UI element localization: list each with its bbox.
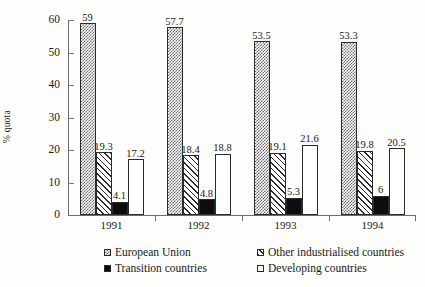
bar-value-label: 19.3 [94,142,112,153]
legend-swatch [257,265,264,272]
legend-label: Developing countries [268,263,367,275]
bar-value-label: 53.3 [339,31,357,42]
y-tick-mark [69,20,74,21]
bar-value-label: 20.5 [387,138,405,149]
y-tick-label: 0 [30,209,60,221]
x-tick-label: 1994 [329,220,416,231]
legend-item: Other industrialised countries [257,247,404,259]
legend-label: European Union [115,247,191,259]
x-tick-mark [329,216,330,221]
bar-value-label: 59 [82,13,93,24]
bar-value-label: 5.3 [287,187,300,198]
y-tick-label: 20 [30,144,60,156]
bar: 57.7 [167,27,183,215]
bar: 5.3 [286,198,302,215]
legend-swatch [104,265,111,272]
bar: 53.3 [341,42,357,215]
bar-value-label: 21.6 [300,134,318,145]
bar-group: 5919.34.117.2 [80,20,144,215]
bar: 20.5 [389,148,405,215]
y-tick-mark [69,53,74,54]
chart-legend: European UnionOther industrialised count… [104,247,404,279]
bar: 18.8 [215,154,231,215]
bar-group: 53.319.8620.5 [341,20,405,215]
bar-group: 53.519.15.321.6 [254,20,318,215]
y-tick-mark [69,118,74,119]
legend-item: European Union [104,247,191,259]
y-tick-mark [69,85,74,86]
y-axis-title: % quota [2,92,16,162]
y-tick-mark [69,215,74,216]
bar: 53.5 [254,41,270,215]
bar: 6 [373,196,389,216]
bar-value-label: 17.2 [126,149,144,160]
bar: 4.1 [112,202,128,215]
y-tick-mark [69,183,74,184]
y-tick-label: 60 [30,14,60,26]
y-tick-label: 50 [30,47,60,59]
chart-figure: % quota 0102030405060 5919.34.117.257.71… [0,0,425,287]
legend-item: Developing countries [257,263,367,275]
bar-value-label: 19.1 [268,142,286,153]
bar-value-label: 18.8 [213,143,231,154]
bar-value-label: 19.8 [355,140,373,151]
x-tick-label: 1992 [155,220,242,231]
x-tick-mark [155,216,156,221]
bar: 17.2 [128,159,144,215]
legend-label: Transition countries [115,263,207,275]
legend-swatch [104,249,111,256]
y-tick-label: 10 [30,177,60,189]
bar-value-label: 57.7 [165,17,183,28]
y-tick-label: 30 [30,112,60,124]
x-tick-label: 1991 [68,220,155,231]
legend-swatch [257,249,264,256]
bar-value-label: 4.1 [113,191,126,202]
x-tick-mark [415,216,416,221]
bar: 21.6 [302,145,318,215]
bar-group: 57.718.44.818.8 [167,20,231,215]
bar-value-label: 6 [378,185,383,196]
y-tick-label: 40 [30,79,60,91]
plot-area: 0102030405060 5919.34.117.257.718.44.818… [68,20,416,216]
y-tick-mark [69,150,74,151]
bar: 4.8 [199,199,215,215]
bar: 19.3 [96,152,112,215]
bar: 19.8 [357,151,373,215]
bar-value-label: 18.4 [181,145,199,156]
x-tick-mark [242,216,243,221]
bar: 19.1 [270,153,286,215]
legend-label: Other industrialised countries [268,247,404,259]
bar-value-label: 53.5 [252,31,270,42]
x-tick-label: 1993 [242,220,329,231]
bar: 18.4 [183,155,199,215]
bar-value-label: 4.8 [200,189,213,200]
legend-item: Transition countries [104,263,207,275]
bar: 59 [80,23,96,215]
